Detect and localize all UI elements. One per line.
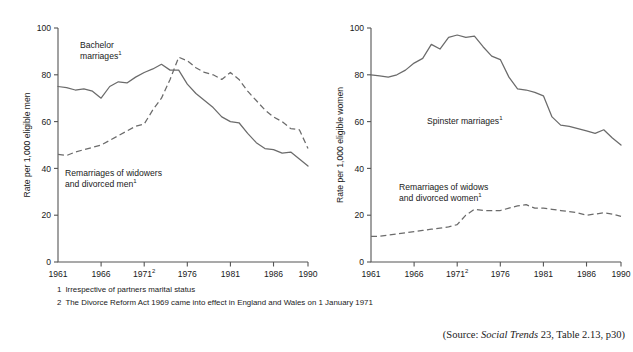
annotation-spinster-superscript: 1 bbox=[499, 115, 502, 121]
x-tick-label: 1990 bbox=[298, 269, 317, 279]
x-tick-label: 1990 bbox=[611, 269, 630, 279]
annotation-bachelor-line2-text: marriages bbox=[80, 51, 118, 61]
series-line-2 bbox=[371, 205, 621, 237]
x-tick-label: 19712 bbox=[133, 268, 156, 279]
line-chart-men: 0204060801001961196619712197619811986199… bbox=[0, 0, 320, 285]
y-tick-label: 20 bbox=[41, 210, 51, 220]
x-tick-label: 1986 bbox=[264, 269, 283, 279]
annotation-bachelor-superscript: 1 bbox=[118, 50, 121, 56]
y-tick-label: 0 bbox=[46, 257, 51, 267]
y-tick-label: 80 bbox=[354, 70, 364, 80]
x-tick-label: 1986 bbox=[577, 269, 596, 279]
x-tick-superscript: 2 bbox=[152, 268, 156, 274]
line-chart-women: 0204060801001961196619712197619811986199… bbox=[327, 0, 633, 285]
annotation-bachelor-line2: marriages1 bbox=[80, 50, 122, 61]
footnote-2: 2 The Divorce Reform Act 1969 came into … bbox=[57, 299, 387, 307]
annotation-remarriages-men-line2-text: and divorced men bbox=[65, 179, 133, 189]
annotation-remarriages-women-line2: and divorced women1 bbox=[399, 192, 488, 203]
footnote-2-number: 2 bbox=[57, 299, 61, 307]
y-tick-label: 20 bbox=[354, 210, 364, 220]
chart-panel-women: 0204060801001961196619712197619811986199… bbox=[327, 0, 633, 285]
annotation-spinster-line1: Spinster marriages1 bbox=[427, 115, 502, 126]
x-tick-label: 1966 bbox=[92, 269, 111, 279]
x-tick-label: 1981 bbox=[221, 269, 240, 279]
y-tick-label: 40 bbox=[354, 164, 364, 174]
footnote-1: 1 Irrespective of partners marital statu… bbox=[57, 286, 387, 294]
axis-lines bbox=[58, 28, 308, 262]
annotation-spinster-marriages: Spinster marriages1 bbox=[427, 115, 502, 126]
y-axis-title: Rate per 1,000 eligible men bbox=[22, 92, 32, 197]
footnote-1-text: Irrespective of partners marital status bbox=[65, 286, 387, 294]
y-tick-label: 100 bbox=[350, 23, 365, 33]
annotation-remarriages-women-line2-text: and divorced women bbox=[399, 193, 478, 203]
source-publication: Social Trends bbox=[481, 329, 538, 340]
x-tick-label: 1976 bbox=[178, 269, 197, 279]
x-tick-label: 1966 bbox=[405, 269, 424, 279]
series-line-1 bbox=[371, 35, 621, 145]
annotation-remarriages-men-line2: and divorced men1 bbox=[65, 178, 162, 189]
y-tick-label: 40 bbox=[41, 164, 51, 174]
annotation-remarriages-women-superscript: 1 bbox=[478, 192, 481, 198]
annotation-remarriages-women-line1: Remarriages of widows bbox=[399, 182, 488, 192]
axes-men: 0204060801001961196619712197619811986199… bbox=[22, 23, 318, 279]
footnote-2-text: The Divorce Reform Act 1969 came into ef… bbox=[65, 299, 387, 307]
chart-panel-men: 0204060801001961196619712197619811986199… bbox=[0, 0, 320, 285]
y-tick-label: 100 bbox=[37, 23, 52, 33]
source-note: (Source: Social Trends 23, Table 2.13, p… bbox=[443, 329, 625, 340]
x-tick-label: 1981 bbox=[534, 269, 553, 279]
series-line-2 bbox=[58, 57, 308, 155]
x-tick-superscript: 2 bbox=[465, 268, 469, 274]
series-group-men bbox=[58, 57, 308, 166]
footnotes: 1 Irrespective of partners marital statu… bbox=[57, 286, 387, 313]
annotation-remarriages-men-superscript: 1 bbox=[133, 178, 136, 184]
source-prefix: (Source: bbox=[443, 329, 481, 340]
footnote-1-number: 1 bbox=[57, 286, 61, 294]
axes-women: 0204060801001961196619712197619811986199… bbox=[335, 23, 631, 279]
y-axis-title: Rate per 1,000 eligible women bbox=[335, 87, 345, 203]
annotation-remarriages-women: Remarriages of widows and divorced women… bbox=[399, 182, 488, 203]
annotation-spinster-line1-text: Spinster marriages bbox=[427, 116, 499, 126]
y-tick-label: 0 bbox=[359, 257, 364, 267]
y-tick-label: 60 bbox=[354, 117, 364, 127]
x-tick-label: 1976 bbox=[491, 269, 510, 279]
y-tick-label: 80 bbox=[41, 70, 51, 80]
series-group-women bbox=[371, 35, 621, 236]
annotation-bachelor-line1: Bachelor bbox=[80, 40, 122, 50]
source-suffix: 23, Table 2.13, p30) bbox=[538, 329, 625, 340]
x-tick-label: 1961 bbox=[361, 269, 380, 279]
annotation-bachelor-marriages: Bachelor marriages1 bbox=[80, 40, 122, 61]
y-tick-label: 60 bbox=[41, 117, 51, 127]
annotation-remarriages-men-line1: Remarriages of widowers bbox=[65, 168, 162, 178]
x-tick-label: 1961 bbox=[48, 269, 67, 279]
axis-lines bbox=[371, 28, 621, 262]
x-tick-label: 19712 bbox=[446, 268, 469, 279]
annotation-remarriages-men: Remarriages of widowers and divorced men… bbox=[65, 168, 162, 189]
